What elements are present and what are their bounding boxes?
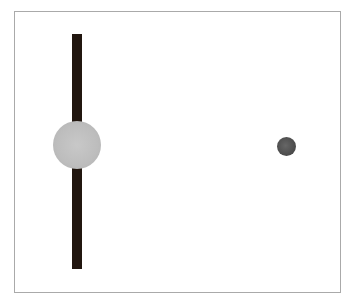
stimulus-frame xyxy=(14,11,341,293)
large-gray-circle xyxy=(53,121,101,169)
small-dark-circle xyxy=(277,137,296,156)
